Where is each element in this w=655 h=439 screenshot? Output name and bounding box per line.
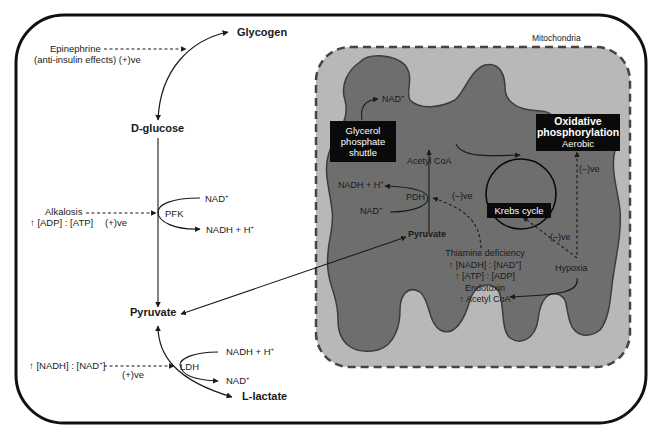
mito-nadh-sup: + — [380, 179, 384, 185]
ldh-nad-sup: + — [246, 375, 250, 381]
glycogen-label: Glycogen — [237, 26, 287, 39]
pfk-nad-text: NAD — [205, 193, 225, 204]
glycerol-box-line3: shuttle — [349, 147, 377, 158]
glycerol-box-line2: phosphate — [341, 136, 385, 147]
nadh-nad-ratio-b: ] — [519, 260, 522, 270]
nadh-ratio-label: ↑ [NADH] : [NAD+] — [29, 360, 105, 371]
glycerol-box-line1: Glycerol — [346, 125, 381, 136]
pfk-nadh-label: NADH + H+ — [206, 224, 254, 235]
thiamine-deficiency-text: Thiamine deficiency — [430, 248, 540, 260]
krebs-effect-label: (–)ve — [550, 232, 571, 243]
pfk-nad-label: NAD+ — [205, 193, 229, 204]
oxidative-phosphorylation-box: Oxidative phosphorylation Aerobic — [536, 114, 620, 151]
pfk-nadh-sup: + — [251, 224, 255, 230]
shuttle-nad-sup: + — [401, 93, 405, 99]
pfk-label: PFK — [165, 208, 183, 219]
pdh-nad-text: NAD — [360, 206, 379, 216]
shuttle-nad-text: NAD — [382, 94, 401, 104]
endotoxin-text: Endotoxin — [430, 283, 540, 295]
ldh-nadh-label: NADH + H+ — [226, 346, 274, 357]
nadh-nad-ratio-a: ↑ [NADH] : [NAD — [449, 260, 516, 270]
nadh-ratio-effect-label: (+)ve — [122, 369, 144, 380]
atp-adp-ratio-text: ↑ [ATP] : [ADP] — [430, 271, 540, 283]
inhibitors-label: Thiamine deficiency ↑ [NADH] : [NAD+] ↑ … — [430, 248, 540, 306]
mito-pyruvate-label: Pyruvate — [408, 229, 446, 240]
epinephrine-label: Epinephrine (anti-insulin effects) (+)ve — [40, 43, 160, 65]
ldh-nad-text: NAD — [226, 375, 246, 386]
pdh-nad-label: NAD+ — [360, 206, 383, 217]
shuttle-nad-label: NAD+ — [382, 94, 405, 105]
pfk-nadh-text: NADH + H — [206, 224, 251, 235]
nadh-ratio-close: ] — [103, 360, 106, 371]
mito-nadh-text: NADH + H — [338, 180, 380, 190]
l-lactate-label: L-lactate — [242, 390, 287, 403]
ldh-nad-label: NAD+ — [226, 375, 250, 386]
ldh-nadh-text: NADH + H — [226, 346, 271, 357]
metabolism-diagram — [0, 0, 655, 439]
pdh-label: PDH — [406, 192, 425, 203]
adp-atp-label: ↑ [ADP] : [ATP] — [30, 217, 93, 228]
pdh-nad-sup: + — [379, 205, 383, 211]
acetyl-coa-label: Acetyl CoA — [407, 156, 452, 167]
glycerol-phosphate-shuttle-box: Glycerol phosphate shuttle — [330, 121, 396, 162]
ldh-label: LDH — [180, 361, 199, 372]
oxphos-line3: Aerobic — [562, 138, 594, 149]
hypoxia-label: Hypoxia — [555, 263, 588, 274]
mitochondria-label: Mitochondria — [532, 33, 581, 44]
pfk-nad-sup: + — [225, 193, 229, 199]
acetyl-coa-increase-text: ↑ Acetyl CoA — [430, 294, 540, 306]
pdh-effect-label: (–)ve — [452, 191, 473, 202]
oxphos-effect-label: (–)ve — [579, 164, 600, 175]
pyruvate-label: Pyruvate — [130, 306, 176, 319]
krebs-cycle-box: Krebs cycle — [487, 203, 551, 218]
d-glucose-label: D-glucose — [131, 122, 184, 135]
alkalosis-effect-label: (+)ve — [105, 217, 127, 228]
oxphos-line2: phosphorylation — [537, 127, 619, 138]
epinephrine-line1: Epinephrine — [40, 43, 160, 54]
nadh-nad-ratio-text: ↑ [NADH] : [NAD+] — [430, 260, 540, 272]
nadh-ratio-text: ↑ [NADH] : [NAD — [29, 360, 99, 371]
epinephrine-line2: (anti-insulin effects) (+)ve — [34, 54, 160, 65]
ldh-nadh-sup: + — [271, 346, 275, 352]
alkalosis-label: Alkalosis — [45, 206, 83, 217]
mito-nadh-label: NADH + H+ — [338, 180, 384, 191]
